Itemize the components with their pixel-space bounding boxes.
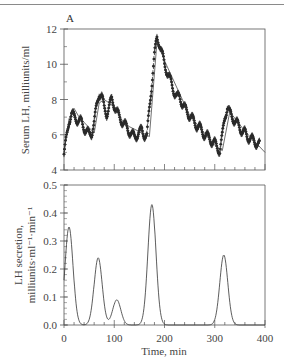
data-point xyxy=(153,51,156,54)
data-point xyxy=(150,90,153,93)
top-plot-frame xyxy=(64,29,265,170)
data-point xyxy=(149,99,152,102)
data-point xyxy=(104,110,107,113)
data-point xyxy=(225,114,228,117)
data-point xyxy=(179,98,182,101)
y-tick-label: 0.5 xyxy=(43,179,57,191)
x-tick-label: 200 xyxy=(156,332,173,344)
data-point xyxy=(151,85,154,88)
data-point xyxy=(127,129,130,132)
data-point xyxy=(107,107,110,110)
data-point xyxy=(220,134,223,137)
data-point xyxy=(102,101,105,104)
figure: 4681012 A Serum LH, milliunits/ml 0.00.1… xyxy=(0,0,284,361)
data-point xyxy=(172,90,175,93)
data-point xyxy=(126,127,129,130)
y-tick-label: 0.4 xyxy=(43,207,57,219)
top-panel: 4681012 A Serum LH, milliunits/ml xyxy=(19,12,265,176)
data-point xyxy=(103,104,106,107)
y-tick-label: 8 xyxy=(52,94,58,106)
data-point xyxy=(93,120,96,123)
data-point xyxy=(147,120,150,123)
y-tick-label: 0.0 xyxy=(43,319,57,331)
data-point xyxy=(146,132,149,135)
bottom-y-axis-title-line2: milliunits·ml⁻¹·min⁻¹ xyxy=(25,207,37,303)
y-tick-label: 0.3 xyxy=(43,235,57,247)
data-point xyxy=(63,153,66,156)
y-tick-label: 0.2 xyxy=(43,263,57,275)
data-point xyxy=(94,107,97,110)
data-point xyxy=(69,118,72,121)
data-point xyxy=(103,107,106,110)
top-data-points xyxy=(63,34,261,157)
data-point xyxy=(164,66,167,69)
data-point xyxy=(171,87,174,90)
data-point xyxy=(141,130,144,133)
data-point xyxy=(107,110,110,113)
y-tick-label: 12 xyxy=(46,23,57,35)
x-axis-title: Time, min xyxy=(141,345,187,357)
data-point xyxy=(111,98,114,101)
data-point xyxy=(93,115,96,118)
top-y-axis-title: Serum LH, milliunits/ml xyxy=(19,46,31,154)
data-point xyxy=(156,39,159,42)
data-point xyxy=(222,124,225,127)
data-point xyxy=(92,128,95,131)
data-point xyxy=(94,111,97,114)
data-point xyxy=(91,134,94,137)
data-point xyxy=(215,142,218,145)
data-point xyxy=(81,123,84,126)
data-point xyxy=(170,81,173,84)
bottom-x-ticks: 0100200300400 xyxy=(61,320,274,344)
x-tick-label: 0 xyxy=(61,332,67,344)
data-point xyxy=(156,36,159,39)
data-point xyxy=(149,102,152,105)
data-point xyxy=(170,78,173,81)
y-tick-label: 10 xyxy=(46,58,58,70)
bottom-y-axis-title-line1: LH secretion, xyxy=(12,225,24,285)
data-point xyxy=(246,135,249,138)
data-point xyxy=(111,101,114,104)
data-point xyxy=(221,131,224,134)
data-point xyxy=(154,46,157,49)
y-tick-label: 0.1 xyxy=(43,291,57,303)
data-point xyxy=(101,96,104,99)
data-point xyxy=(153,58,156,61)
data-point xyxy=(220,138,223,141)
data-point xyxy=(74,116,77,119)
data-point xyxy=(137,133,140,136)
x-tick-label: 400 xyxy=(257,332,274,344)
data-point xyxy=(69,121,72,124)
data-point xyxy=(82,126,85,129)
data-point xyxy=(152,72,155,75)
data-point xyxy=(152,65,155,68)
secretion-curve xyxy=(64,205,265,325)
data-point xyxy=(146,126,149,129)
data-point xyxy=(141,127,144,130)
data-point xyxy=(92,124,95,127)
top-x-ticks xyxy=(64,164,265,170)
data-point xyxy=(110,96,113,99)
data-point xyxy=(171,84,174,87)
data-point xyxy=(258,139,261,142)
y-tick-label: 4 xyxy=(52,164,58,176)
data-point xyxy=(147,114,150,117)
data-point xyxy=(106,115,109,118)
data-point xyxy=(238,126,241,129)
top-fit-line xyxy=(64,41,265,152)
data-point xyxy=(221,127,224,130)
panel-label: A xyxy=(66,12,74,24)
y-tick-label: 6 xyxy=(52,129,58,141)
data-point xyxy=(148,106,151,109)
data-point xyxy=(150,95,153,98)
data-point xyxy=(219,143,222,146)
data-point xyxy=(218,152,221,155)
x-tick-label: 100 xyxy=(106,332,123,344)
data-point xyxy=(151,79,154,82)
data-point xyxy=(164,69,167,72)
x-tick-label: 300 xyxy=(207,332,224,344)
data-point xyxy=(148,110,151,113)
data-point xyxy=(106,113,109,116)
bottom-panel: 0.00.10.20.30.40.5 0100200300400 LH secr… xyxy=(12,179,274,357)
